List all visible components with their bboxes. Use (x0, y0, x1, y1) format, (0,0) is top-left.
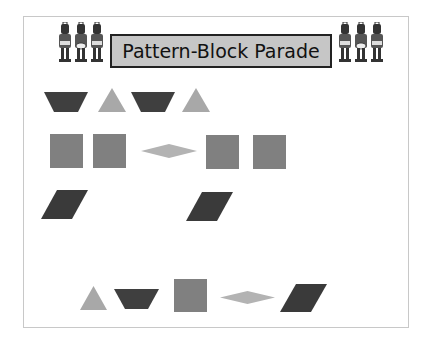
trapezoid-block[interactable] (44, 92, 88, 112)
page-title: Pattern-Block Parade (122, 40, 319, 62)
parallelogram-block[interactable] (41, 190, 88, 219)
answer-choice-square[interactable] (174, 279, 207, 312)
trapezoid-block[interactable] (131, 92, 175, 112)
thin-rhombus-block[interactable] (141, 144, 197, 158)
parallelogram-block[interactable] (186, 192, 233, 221)
toy-soldiers-icon-left (56, 22, 106, 64)
square-block[interactable] (50, 134, 83, 168)
square-block[interactable] (93, 134, 126, 168)
missing-blocks-placeholder (100, 190, 180, 220)
title-banner: Pattern-Block Parade (110, 34, 332, 68)
square-block[interactable] (206, 135, 239, 169)
toy-soldiers-icon-right (336, 22, 386, 64)
triangle-block[interactable] (182, 88, 210, 112)
answer-choice-parallelogram[interactable] (280, 284, 327, 312)
answer-choice-trapezoid[interactable] (114, 289, 159, 309)
answer-choice-thin-rhombus[interactable] (220, 291, 275, 304)
answer-choice-triangle[interactable] (80, 286, 107, 310)
square-block[interactable] (253, 135, 286, 169)
triangle-block[interactable] (98, 88, 126, 112)
